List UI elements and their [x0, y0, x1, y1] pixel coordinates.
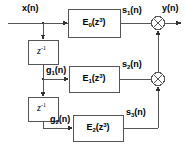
filter-e2-arg-exp: 3 — [103, 122, 106, 128]
filter-e0-arg-exp: 3 — [99, 17, 102, 23]
signal-label-g2-base: g — [50, 114, 56, 124]
signal-label-output: y(n) — [162, 4, 179, 13]
signal-label-s1: s1(n) — [122, 6, 142, 15]
filter-e1-sub: 1 — [88, 78, 91, 84]
delay-2-label: z-1 — [37, 103, 46, 113]
signal-label-input: x(n) — [22, 4, 39, 13]
filter-e0-sub: 0 — [88, 22, 91, 28]
filter-e2-sub: 2 — [92, 127, 95, 133]
signal-label-g1-base: g — [46, 65, 52, 75]
signal-label-s3-sub: 3 — [131, 112, 134, 118]
signal-label-g1-sub: 1 — [52, 70, 55, 76]
delay-2-exp: -1 — [41, 102, 46, 108]
signal-label-s3-tail: (n) — [134, 107, 146, 117]
signal-label-s2-tail: (n) — [130, 59, 142, 69]
arrowhead-adder2-vertical — [156, 86, 160, 92]
signal-label-g2-sub: 2 — [56, 119, 59, 125]
arrowhead-adder1-vertical — [156, 30, 160, 36]
block-diagram-canvas: x(n) y(n) E0(z3) E1(z3) E2(z3) z-1 z-1 g… — [0, 0, 186, 149]
arrowhead-delay1-input — [41, 35, 45, 41]
signal-label-s3: s3(n) — [126, 108, 146, 117]
signal-label-g2: g2(n) — [50, 115, 70, 124]
filter-e1-label: E1(z3) — [69, 74, 119, 83]
signal-label-s2: s2(n) — [122, 60, 142, 69]
filter-e0-arg-close: ) — [103, 17, 106, 27]
delay-1-label: z-1 — [37, 46, 46, 56]
filter-e0-label: E0(z3) — [68, 18, 120, 27]
arrowhead-output — [176, 21, 182, 26]
signal-label-g1-tail: (n) — [55, 65, 67, 75]
filter-e1-arg-exp: 3 — [99, 73, 102, 79]
signal-label-s1-tail: (n) — [130, 5, 142, 15]
signal-label-s1-sub: 1 — [127, 10, 130, 16]
filter-e2-arg-close: ) — [107, 122, 110, 132]
arrowhead-delay2-input — [41, 92, 45, 98]
filter-e1-arg-close: ) — [103, 73, 106, 83]
signal-label-s2-sub: 2 — [127, 64, 130, 70]
signal-label-g1: g1(n) — [46, 66, 66, 75]
delay-1-exp: -1 — [41, 45, 46, 51]
signal-label-g2-tail: (n) — [59, 114, 71, 124]
filter-e2-label: E2(z3) — [73, 123, 123, 132]
